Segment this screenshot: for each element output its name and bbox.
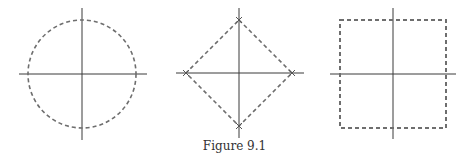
square-figure (330, 8, 456, 139)
circle-figure (19, 8, 147, 140)
figure-canvas (0, 0, 469, 159)
diamond-figure (176, 8, 304, 138)
figure-caption: Figure 9.1 (0, 139, 469, 153)
